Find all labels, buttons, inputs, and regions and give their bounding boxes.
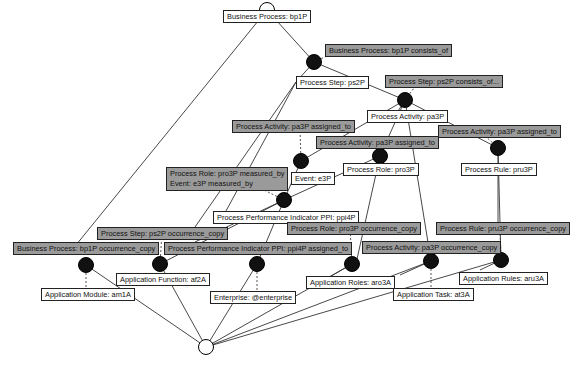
relation-label-pa3P-assigned-1[interactable]: Process Activity: pa3P assigned_to	[232, 120, 355, 133]
concept-label-pru3P[interactable]: Process Rule: pru3P	[461, 163, 537, 176]
relation-node[interactable]	[398, 93, 413, 108]
concept-label-aro3A[interactable]: Application Roles: aro3A	[306, 276, 395, 289]
concept-label-enterprise[interactable]: Enterprise: @enterprise	[210, 291, 296, 304]
concept-label-bp1P[interactable]: Business Process: bp1P	[223, 10, 311, 23]
relation-node[interactable]	[294, 154, 309, 169]
relation-node[interactable]	[277, 193, 292, 208]
relation-label-pru3P-occ[interactable]: Process Rule: pru3P occurrence_copy	[436, 222, 570, 235]
relation-label-measured[interactable]: Process Role: pro3P measured_byEvent: e3…	[166, 167, 288, 191]
relation-node[interactable]	[79, 258, 94, 273]
relation-label-bp1P-consists[interactable]: Business Process: bp1P consists_of	[325, 44, 452, 57]
relation-label-pa3P-occ[interactable]: Process Activity: pa3P occurrence_copy	[362, 241, 501, 254]
concept-label-ps2P[interactable]: Process Step: ps2P	[296, 76, 369, 89]
relation-node[interactable]	[153, 257, 168, 272]
relation-node[interactable]	[491, 141, 506, 156]
lattice-canvas	[0, 0, 577, 367]
relation-label-bp1P-occ[interactable]: Business Process: bp1P occurrence_copy	[13, 242, 159, 255]
concept-label-e3P[interactable]: Event: e3P	[291, 172, 335, 185]
concept-label-aru3A[interactable]: Application Rules: aru3A	[459, 272, 548, 285]
relation-node[interactable]	[345, 257, 360, 272]
relation-label-ppi4P-assigned[interactable]: Process Performance Indicator PPI: ppi4P…	[164, 242, 352, 255]
relation-node[interactable]	[494, 253, 509, 268]
lattice-edge	[405, 100, 431, 261]
concept-label-pro3P[interactable]: Process Role: pro3P	[343, 163, 419, 176]
relation-label-ps2P-consists[interactable]: Process Step: ps2P consists_of...	[385, 75, 503, 88]
relation-node[interactable]	[424, 254, 439, 269]
relation-label-pro3P-occ[interactable]: Process Role: pro3P occurrence_copy	[287, 222, 421, 235]
relation-label-pa3P-assigned-2[interactable]: Process Activity: pa3P assigned_to	[438, 125, 561, 138]
relation-label-ps2P-occ[interactable]: Process Step: ps2P occurrence_copy	[97, 227, 228, 240]
relation-node[interactable]	[373, 149, 388, 164]
concept-label-at3A[interactable]: Application Task: at3A	[393, 288, 474, 301]
relation-node[interactable]	[250, 257, 265, 272]
relation-node[interactable]	[307, 55, 322, 70]
bottom-node[interactable]	[199, 340, 214, 355]
concept-label-af2A[interactable]: Application Function: af2A	[116, 273, 210, 286]
concept-label-pa3P[interactable]: Process Activity: pa3P	[367, 110, 448, 123]
concept-label-am1A[interactable]: Application Module: am1A	[41, 288, 135, 301]
relation-label-pa3P-assigned-3[interactable]: Process Activity: pa3P assigned_to	[316, 136, 439, 149]
